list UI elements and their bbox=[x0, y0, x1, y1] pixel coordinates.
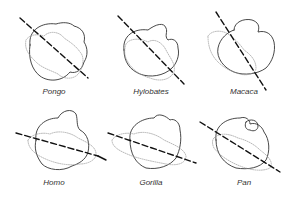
label-gorilla: Gorilla bbox=[111, 178, 191, 187]
panel-homo bbox=[16, 111, 98, 170]
label-pan: Pan bbox=[204, 178, 284, 187]
panel-hylobates bbox=[118, 16, 184, 84]
label-macaca: Macaca bbox=[204, 87, 284, 96]
label-hylobates: Hylobates bbox=[111, 87, 191, 96]
panel-gorilla bbox=[98, 115, 196, 169]
panel-macaca bbox=[208, 12, 275, 90]
primate-skull-figure: Pongo Hylobates Macaca Homo Gorilla Pan bbox=[0, 0, 294, 199]
label-pongo: Pongo bbox=[14, 87, 94, 96]
panel-pan bbox=[200, 117, 280, 172]
skull-drawings bbox=[0, 0, 294, 199]
label-homo: Homo bbox=[14, 178, 94, 187]
panel-pongo bbox=[20, 18, 88, 80]
